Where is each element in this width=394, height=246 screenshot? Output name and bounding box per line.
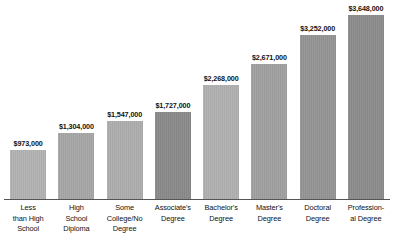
bar <box>58 133 94 199</box>
bar-group: $973,000 <box>4 4 52 199</box>
bar-value-label: $1,304,000 <box>59 122 94 131</box>
bar <box>10 150 46 199</box>
bar-value-label: $1,547,000 <box>107 110 142 119</box>
category-label: DoctoralDegree <box>294 203 342 235</box>
bar-value-label: $973,000 <box>14 139 43 148</box>
bar-group: $1,304,000 <box>52 4 100 199</box>
bar <box>155 112 191 199</box>
x-axis-line <box>4 199 390 200</box>
lifetime-earnings-bar-chart: $973,000 $1,304,000 $1,547,000 $1,727,00… <box>0 0 394 246</box>
x-axis-category-labels: Lessthan HighSchool HighSchoolDiploma So… <box>4 203 390 235</box>
bar-group: $1,727,000 <box>149 4 197 199</box>
bar <box>107 121 143 199</box>
bar <box>251 64 287 199</box>
bar-value-label: $3,648,000 <box>348 4 383 13</box>
category-label: SomeCollege/NoDegree <box>101 203 149 235</box>
bar-value-label: $2,671,000 <box>252 53 287 62</box>
plot-area: $973,000 $1,304,000 $1,547,000 $1,727,00… <box>4 4 390 199</box>
bar-group: $2,268,000 <box>197 4 245 199</box>
bar-group: $1,547,000 <box>101 4 149 199</box>
bar <box>203 85 239 199</box>
category-label: Master'sDegree <box>245 203 293 235</box>
category-label: HighSchoolDiploma <box>52 203 100 235</box>
bar-value-label: $3,252,000 <box>300 24 335 33</box>
category-label: Lessthan HighSchool <box>4 203 52 235</box>
bar <box>348 15 384 199</box>
bar <box>300 35 336 199</box>
category-label: Profession-al Degree <box>342 203 390 235</box>
bar-group: $3,648,000 <box>342 4 390 199</box>
bar-group: $2,671,000 <box>245 4 293 199</box>
bar-value-label: $1,727,000 <box>155 101 190 110</box>
category-label: Bachelor'sDegree <box>197 203 245 235</box>
category-label: Associate'sDegree <box>149 203 197 235</box>
bar-value-label: $2,268,000 <box>204 74 239 83</box>
bar-group: $3,252,000 <box>294 4 342 199</box>
